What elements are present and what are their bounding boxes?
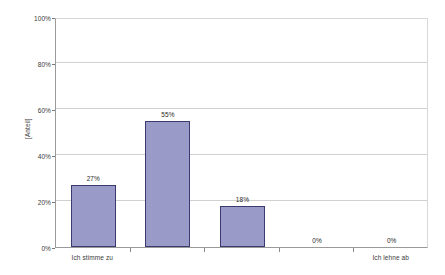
x-axis-category-label: Ich lehne ab (372, 254, 409, 261)
gridline (56, 108, 427, 109)
bar-chart: [Anteil] 0%20%40%60%80%100% 27%55%18%0%0… (0, 0, 445, 275)
x-axis-tick-mark (353, 248, 354, 252)
y-axis-tick-mark (52, 248, 55, 249)
bar-value-label: 27% (87, 175, 100, 182)
y-axis-tick-label: 0% (41, 245, 51, 252)
y-axis-tick-label: 40% (38, 153, 51, 160)
plot-area: 27%55%18%0%0% (55, 18, 428, 248)
bar-value-label: 0% (312, 237, 322, 244)
bar-value-label: 18% (236, 196, 249, 203)
bar-value-label: 55% (161, 111, 174, 118)
x-axis-tick-mark (130, 248, 131, 252)
y-axis-title: [Anteil] (24, 118, 31, 139)
y-axis-tick-label: 20% (38, 199, 51, 206)
bar (220, 206, 265, 247)
gridline (56, 62, 427, 63)
bar (71, 185, 116, 247)
bar (145, 121, 190, 248)
y-axis-tick-label: 60% (38, 107, 51, 114)
bar-value-label: 0% (387, 237, 397, 244)
x-axis-tick-mark (279, 248, 280, 252)
gridline (56, 154, 427, 155)
x-axis-tick-mark (204, 248, 205, 252)
x-axis-category-label: Ich stimme zu (72, 254, 113, 261)
y-axis-tick-label: 80% (38, 61, 51, 68)
y-axis-tick-label: 100% (34, 15, 51, 22)
